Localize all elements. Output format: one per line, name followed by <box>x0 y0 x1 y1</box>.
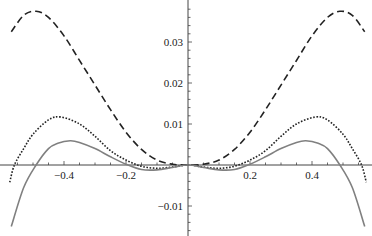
axes <box>0 0 372 236</box>
y-tick-label: −0.01 <box>158 200 183 212</box>
x-tick-label: 0.4 <box>305 169 319 181</box>
chart-container: −0.4−0.20.20.40.030.020.01−0.01 <box>0 0 372 236</box>
plot-area: −0.4−0.20.20.40.030.020.01−0.01 <box>0 0 372 236</box>
x-tick-label: −0.2 <box>116 169 136 181</box>
y-tick-label: 0.02 <box>164 77 183 89</box>
y-tick-label: 0.01 <box>164 118 183 130</box>
tick-labels: −0.4−0.20.20.40.030.020.01−0.01 <box>54 36 319 212</box>
x-tick-label: −0.4 <box>54 169 74 181</box>
y-tick-label: 0.03 <box>164 36 184 48</box>
x-tick-label: 0.2 <box>243 169 257 181</box>
